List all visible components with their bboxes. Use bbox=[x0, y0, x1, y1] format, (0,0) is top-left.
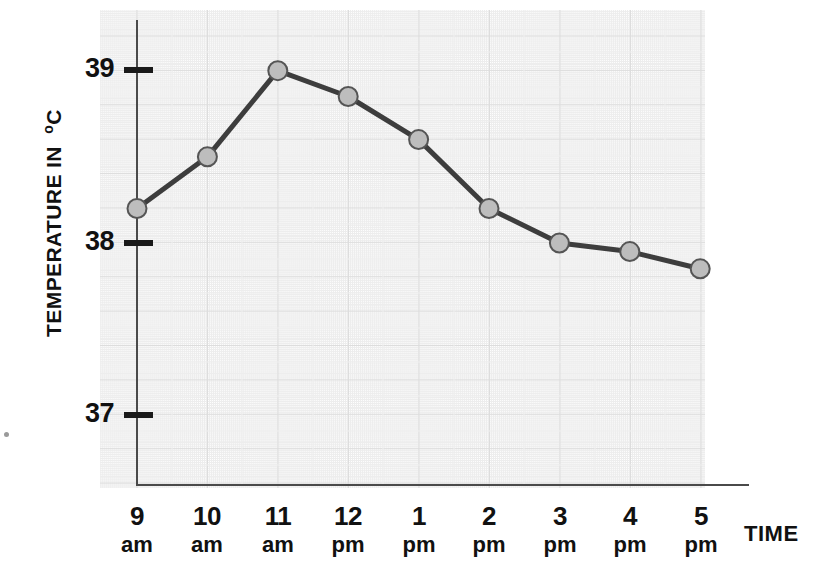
data-point-11am bbox=[268, 61, 287, 80]
data-series-plot bbox=[0, 0, 828, 575]
data-point-12pm bbox=[339, 87, 358, 106]
data-point-5pm bbox=[691, 259, 710, 278]
data-point-9am bbox=[128, 199, 147, 218]
data-point-3pm bbox=[550, 234, 569, 253]
data-point-1pm bbox=[409, 130, 428, 149]
data-point-4pm bbox=[620, 242, 639, 261]
data-point-10am bbox=[198, 147, 217, 166]
chart-canvas: 39 38 37 TEMPERATURE IN oC 9 am 10 am 11… bbox=[0, 0, 828, 575]
temperature-markers bbox=[128, 61, 710, 278]
data-point-2pm bbox=[480, 199, 499, 218]
temperature-line bbox=[137, 71, 700, 269]
